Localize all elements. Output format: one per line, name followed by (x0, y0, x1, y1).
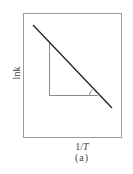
plot-frame (24, 14, 122, 138)
y-axis-label: lnk (10, 61, 24, 85)
x-axis-label-prefix: 1/ (75, 141, 83, 152)
ln-k-vs-inverse-t-diagram: lnk 1/T (a) (0, 0, 133, 174)
angle-arc (89, 90, 92, 96)
x-axis-label-variable: T (83, 141, 89, 152)
figure-caption: (a) (66, 152, 98, 164)
